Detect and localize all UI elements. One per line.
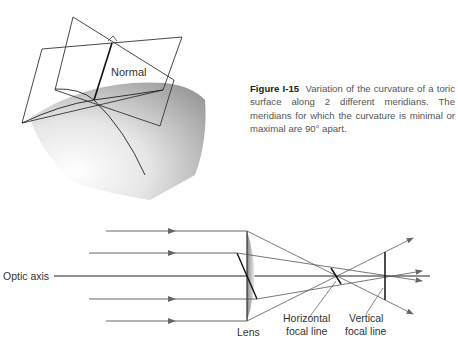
optic-axis-label: Optic axis (3, 270, 49, 282)
horizontal-focal-line-label-1: Horizontal (283, 312, 330, 324)
ray-arrow-2 (168, 250, 176, 256)
lens (247, 231, 255, 321)
astigmatism-diagram: Optic axis Lens Horizontal focal li (3, 228, 430, 338)
figure-id: Figure I-15 (250, 83, 299, 94)
lens-label: Lens (237, 326, 260, 338)
toric-surface-diagram: Normal (22, 17, 206, 200)
ray-arrow-3 (168, 296, 176, 302)
vertical-focal-line-label-1: Vertical (349, 312, 383, 324)
ray-arrow-1 (168, 228, 176, 234)
figure-canvas: Normal Optic axis Lens (0, 0, 458, 347)
horizontal-focal-line-label-2: focal line (286, 325, 328, 337)
ray-arrow-4 (168, 318, 176, 324)
normal-label: Normal (111, 66, 146, 78)
vertical-focal-line-label-2: focal line (345, 325, 387, 337)
figure-caption: Figure I-15 Variation of the curvature o… (250, 82, 455, 135)
toric-surface (30, 82, 206, 200)
